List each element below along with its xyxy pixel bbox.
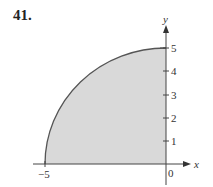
x-tick-label-0: 0 (168, 167, 174, 179)
y-tick-label-2: 2 (171, 112, 177, 124)
y-tick-label-5: 5 (171, 42, 177, 54)
shaded-region (45, 48, 166, 164)
y-axis-label: y (162, 13, 168, 25)
y-axis-arrow-icon (163, 25, 169, 33)
x-axis-label: x (193, 158, 199, 170)
y-tick-label-4: 4 (171, 65, 177, 77)
y-tick-label-3: 3 (171, 89, 177, 101)
quarter-circle-graph: 1 2 3 4 5 −5 0 x y (0, 0, 213, 187)
y-tick-label-1: 1 (171, 135, 177, 147)
x-tick-label-neg5: −5 (38, 168, 50, 180)
x-axis-arrow-icon (183, 161, 191, 167)
